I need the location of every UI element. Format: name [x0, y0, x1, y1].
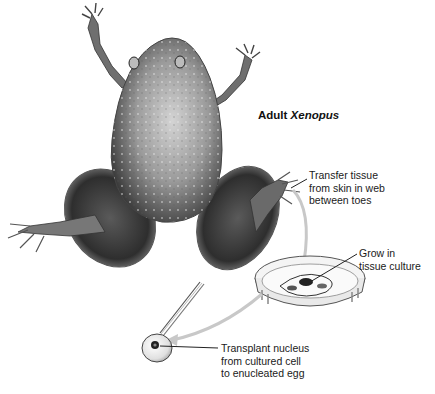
title-species: Xenopus: [291, 109, 340, 121]
frog-left-eye: [129, 57, 139, 69]
title-prefix: Adult: [258, 109, 287, 121]
frog-illustration: [8, 3, 300, 285]
transfer-pointer-line: [291, 179, 307, 188]
step-transfer-label: Transfer tissue from skin in web between…: [309, 169, 385, 207]
xenopus-nuclear-transplant-diagram: Adult Xenopus Transfer tissue from skin …: [0, 0, 435, 394]
figure-title: Adult Xenopus: [258, 109, 339, 121]
micropipette-illustration: [160, 282, 204, 336]
enucleated-egg-illustration: [142, 334, 172, 362]
arrow-foot-to-dish: [293, 190, 306, 262]
step-transplant-label: Transplant nucleus from cultured cell to…: [221, 342, 309, 380]
petri-dish-illustration: [255, 256, 365, 306]
frog-right-eye: [175, 56, 185, 68]
step-grow-label: Grow in tissue culture: [359, 247, 421, 272]
